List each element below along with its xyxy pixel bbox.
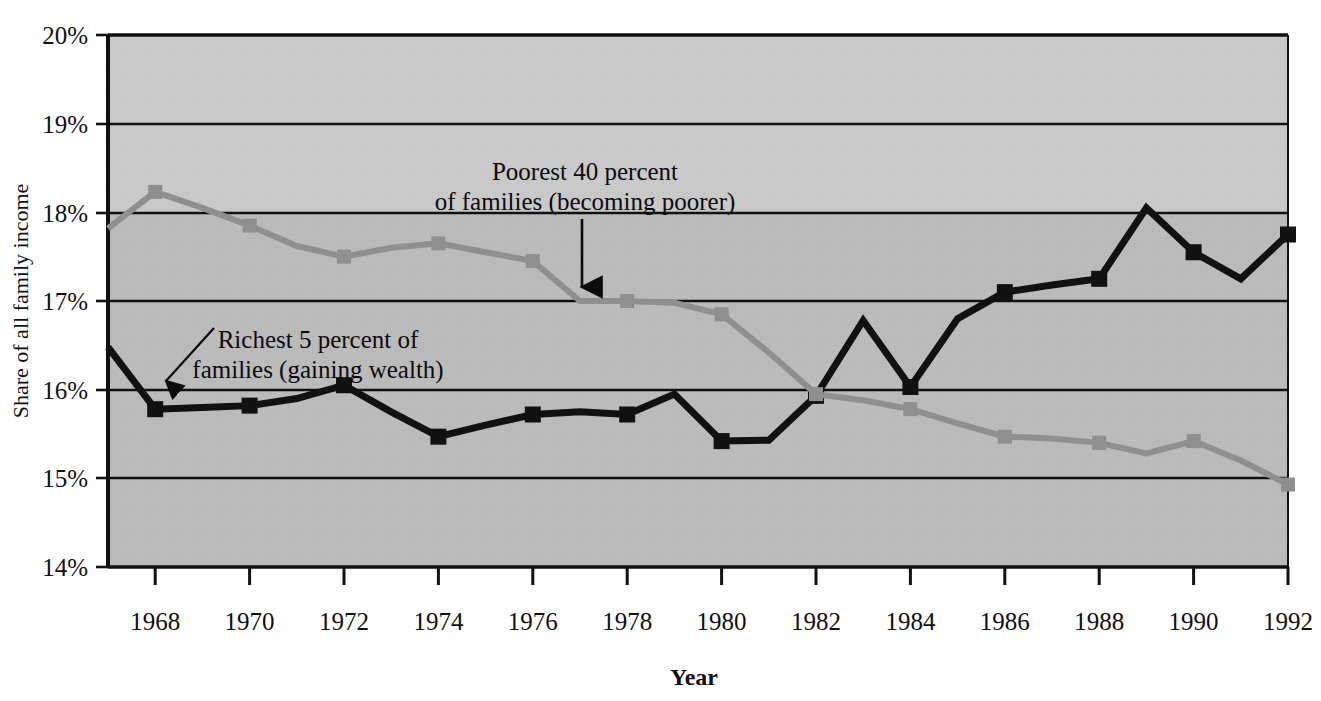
data-point-marker — [337, 250, 351, 264]
annotation-poorest-line1: Poorest 40 percent — [492, 158, 678, 185]
x-axis-tick-labels: 1968197019721974197619781980198219841986… — [130, 608, 1313, 635]
x-tick-label: 1992 — [1263, 608, 1313, 635]
y-tick-label: 19% — [42, 111, 88, 138]
data-point-marker — [431, 236, 445, 250]
data-point-marker — [714, 433, 730, 449]
annotation-richest-line1: Richest 5 percent of — [218, 326, 419, 353]
y-axis-tick-labels: 20% 19% 18% 17% 16% 15% 14% — [42, 22, 88, 581]
x-tick-label: 1986 — [980, 608, 1030, 635]
data-point-marker — [1187, 434, 1201, 448]
x-tick-label: 1972 — [319, 608, 369, 635]
x-tick-label: 1978 — [602, 608, 652, 635]
data-point-marker — [809, 387, 823, 401]
data-point-marker — [620, 294, 634, 308]
data-point-marker — [715, 307, 729, 321]
data-point-marker — [525, 406, 541, 422]
data-point-marker — [903, 402, 917, 416]
data-point-marker — [1091, 271, 1107, 287]
y-tick-label: 16% — [42, 377, 88, 404]
annotation-poorest-line2: of families (becoming poorer) — [435, 188, 736, 216]
x-tick-label: 1982 — [791, 608, 841, 635]
data-point-marker — [997, 284, 1013, 300]
data-point-marker — [147, 401, 163, 417]
y-tick-label: 20% — [42, 22, 88, 49]
y-tick-label: 15% — [42, 465, 88, 492]
annotation-richest-line2: families (gaining wealth) — [192, 356, 443, 384]
x-tick-label: 1990 — [1169, 608, 1219, 635]
x-tick-label: 1968 — [130, 608, 180, 635]
x-tick-label: 1984 — [885, 608, 936, 635]
x-tick-label: 1974 — [413, 608, 464, 635]
data-point-marker — [1280, 227, 1296, 243]
data-point-marker — [526, 254, 540, 268]
chart-figure: 20% 19% 18% 17% 16% 15% 14% 196819701972… — [0, 0, 1321, 701]
data-point-marker — [998, 430, 1012, 444]
y-axis-title: Share of all family income — [8, 184, 33, 419]
data-point-marker — [1092, 436, 1106, 450]
data-point-marker — [430, 429, 446, 445]
x-tick-label: 1980 — [697, 608, 747, 635]
data-point-marker — [242, 398, 258, 414]
data-point-marker — [619, 406, 635, 422]
income-share-line-chart: 20% 19% 18% 17% 16% 15% 14% 196819701972… — [0, 0, 1321, 701]
x-tick-label: 1976 — [508, 608, 558, 635]
data-point-marker — [148, 185, 162, 199]
x-axis-ticks — [155, 567, 1288, 585]
y-tick-label: 14% — [42, 554, 88, 581]
data-point-marker — [902, 379, 918, 395]
y-tick-label: 17% — [42, 288, 88, 315]
data-point-marker — [243, 219, 257, 233]
y-tick-label: 18% — [42, 200, 88, 227]
data-point-marker — [1281, 478, 1295, 492]
x-axis-title: Year — [670, 664, 718, 690]
x-tick-label: 1970 — [225, 608, 275, 635]
data-point-marker — [1186, 244, 1202, 260]
x-tick-label: 1988 — [1074, 608, 1124, 635]
